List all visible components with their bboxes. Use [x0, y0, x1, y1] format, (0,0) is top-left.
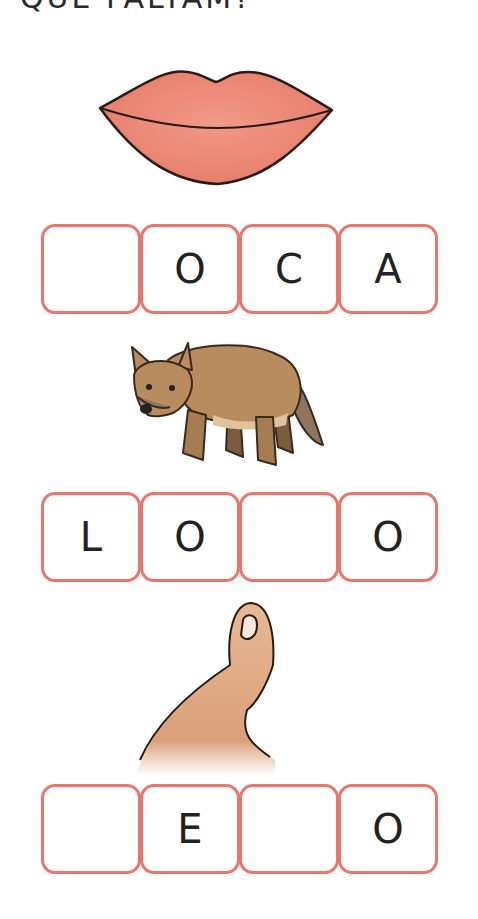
letter-box[interactable]: [41, 784, 141, 874]
letter-box[interactable]: O: [140, 492, 240, 582]
word-row-1: O C A: [41, 224, 441, 314]
word-row-3: E O: [41, 784, 441, 874]
letter-box[interactable]: [41, 224, 141, 314]
letter-box[interactable]: O: [140, 224, 240, 314]
letter-box[interactable]: A: [338, 224, 438, 314]
letter-box[interactable]: O: [338, 784, 438, 874]
letter-box[interactable]: [239, 492, 339, 582]
thumb-picture: [135, 595, 285, 775]
wolf-picture: [128, 335, 338, 470]
letter-box[interactable]: E: [140, 784, 240, 874]
lips-picture: [98, 68, 334, 186]
letter-box[interactable]: C: [239, 224, 339, 314]
letter-box[interactable]: O: [338, 492, 438, 582]
page-title: QUE FALTAM?: [20, 0, 253, 15]
word-row-2: L O O: [41, 492, 441, 582]
letter-box[interactable]: L: [41, 492, 141, 582]
letter-box[interactable]: [239, 784, 339, 874]
